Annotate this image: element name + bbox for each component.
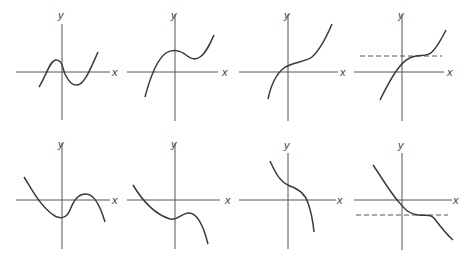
y-axis-label: y — [283, 139, 291, 151]
cubic-curve — [373, 165, 453, 240]
cubic-curve — [133, 185, 208, 244]
x-axis-label: x — [339, 66, 346, 78]
cubic-curve — [270, 161, 314, 232]
y-axis-label: y — [57, 138, 65, 150]
y-axis-label: y — [170, 9, 178, 21]
panel-7: y x — [239, 139, 343, 249]
panel-8: y x — [354, 139, 459, 250]
y-axis-label: y — [57, 9, 65, 21]
panel-1: y x — [16, 9, 118, 120]
panel-5: y x — [16, 138, 118, 249]
x-axis-label: x — [111, 194, 118, 206]
x-axis-label: x — [221, 66, 228, 78]
cubic-curve — [145, 35, 214, 97]
cubic-graphs-figure: y x y x y x y x y x y x — [0, 0, 474, 266]
panel-6: y x — [127, 138, 231, 249]
x-axis-label: x — [336, 194, 343, 206]
x-axis-label: x — [111, 66, 118, 78]
panel-3: y x — [239, 9, 346, 121]
cubic-curve — [380, 30, 446, 100]
cubic-curve — [268, 24, 332, 99]
x-axis-label: x — [452, 194, 459, 206]
panel-2: y x — [127, 9, 228, 121]
y-axis-label: y — [397, 9, 405, 21]
x-axis-label: x — [224, 194, 231, 206]
cubic-curve — [39, 52, 98, 87]
y-axis-label: y — [170, 138, 178, 150]
y-axis-label: y — [397, 139, 405, 151]
panel-4: y x — [354, 9, 453, 121]
x-axis-label: x — [446, 66, 453, 78]
y-axis-label: y — [283, 9, 291, 21]
